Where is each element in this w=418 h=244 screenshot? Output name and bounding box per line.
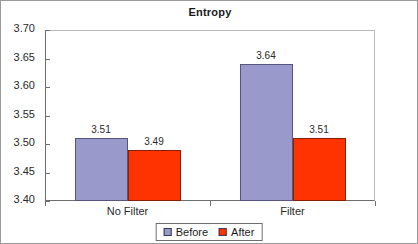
y-axis-tick-label: 3.45 (14, 165, 35, 177)
chart-title: Entropy (1, 6, 418, 18)
x-axis-category-label: No Filter (68, 205, 188, 217)
x-axis-tick-mark (375, 201, 376, 206)
bar-after-no-filter (128, 150, 181, 201)
y-axis-tick-mark (45, 30, 50, 31)
bar-value-label: 3.49 (134, 136, 174, 147)
legend-item-after[interactable]: After (219, 226, 254, 238)
legend-label: Before (176, 226, 208, 238)
y-axis-tick-label: 3.40 (14, 193, 35, 205)
legend-label: After (231, 226, 254, 238)
y-axis-tick-mark (45, 59, 50, 60)
y-axis-tick-label: 3.70 (14, 22, 35, 34)
bar-after-filter (293, 138, 346, 201)
bar-value-label: 3.64 (246, 50, 286, 61)
y-axis-tick-label: 3.55 (14, 108, 35, 120)
legend-swatch-icon (219, 228, 227, 236)
bar-value-label: 3.51 (81, 124, 121, 135)
chart-legend: BeforeAfter (156, 223, 263, 241)
y-axis-tick-mark (45, 173, 50, 174)
x-axis-tick-mark (45, 201, 46, 206)
bar-before-filter (240, 64, 293, 201)
legend-swatch-icon (164, 228, 172, 236)
chart-container: Entropy 3.703.653.603.553.503.453.40 Bef… (0, 0, 418, 244)
bar-before-no-filter (75, 138, 128, 201)
y-axis: 3.703.653.603.553.503.453.40 (1, 30, 41, 201)
legend-item-before[interactable]: Before (164, 226, 208, 238)
bar-value-label: 3.51 (299, 124, 339, 135)
x-axis-tick-mark (210, 201, 211, 206)
y-axis-tick-mark (45, 116, 50, 117)
x-axis-category-label: Filter (233, 205, 353, 217)
y-axis-tick-mark (45, 144, 50, 145)
y-axis-tick-label: 3.50 (14, 136, 35, 148)
y-axis-tick-label: 3.65 (14, 51, 35, 63)
y-axis-tick-label: 3.60 (14, 79, 35, 91)
y-axis-tick-mark (45, 87, 50, 88)
